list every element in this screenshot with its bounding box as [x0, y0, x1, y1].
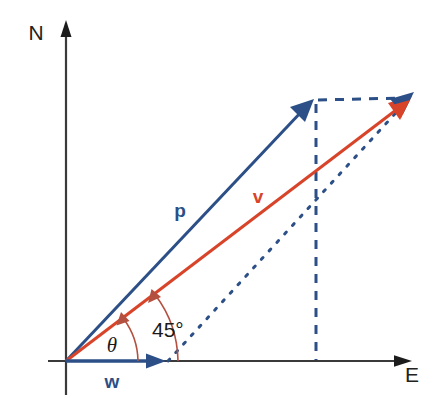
forty-five-degree-label: 45°	[152, 318, 184, 341]
north-axis-arrowhead	[61, 20, 72, 37]
north-axis-label: N	[28, 21, 43, 44]
east-axis-label: E	[405, 363, 419, 386]
vector-w-arrowhead	[146, 354, 166, 369]
theta-arc	[124, 319, 139, 361]
vector-diagram-canvas: N E p v w θ 45°	[0, 0, 443, 416]
dashed-diagonal-line	[168, 104, 404, 361]
axes-group	[48, 20, 412, 395]
vector-diagram-svg: N E p v w θ 45°	[0, 0, 443, 416]
vector-p-shaft	[66, 110, 303, 361]
vector-w-label: w	[104, 371, 120, 392]
vector-v-shaft	[66, 107, 400, 361]
vector-p-group	[66, 99, 314, 361]
construction-lines-group	[168, 98, 404, 361]
vector-p-label: p	[174, 200, 186, 221]
vector-v-label: v	[253, 186, 264, 207]
theta-angle-label: θ	[107, 333, 117, 357]
